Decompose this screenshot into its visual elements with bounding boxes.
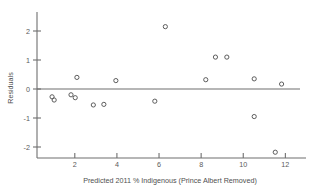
data-point-12 xyxy=(225,55,229,59)
data-point-11 xyxy=(213,55,217,59)
data-point-14 xyxy=(252,114,256,118)
data-point-6 xyxy=(102,102,106,106)
data-point-8 xyxy=(153,99,157,103)
y-tick-label--1: -1 xyxy=(24,114,30,123)
x-tick-label-4: 4 xyxy=(115,160,119,169)
y-tick-label-1: 1 xyxy=(26,56,30,65)
y-axis-title: Residuals xyxy=(6,72,15,104)
data-point-4 xyxy=(75,75,79,79)
data-point-15 xyxy=(273,150,277,154)
data-point-1 xyxy=(52,98,56,102)
data-point-10 xyxy=(204,78,208,82)
data-point-16 xyxy=(279,82,283,86)
residual-scatter-chart: 24681012210-1-2Predicted 2011 % Indigeno… xyxy=(0,0,310,195)
x-tick-label-10: 10 xyxy=(239,160,247,169)
data-point-2 xyxy=(69,93,73,97)
plot-canvas: 24681012210-1-2Predicted 2011 % Indigeno… xyxy=(0,0,310,195)
y-tick-label-2: 2 xyxy=(26,27,30,36)
data-point-13 xyxy=(252,77,256,81)
data-point-7 xyxy=(114,78,118,82)
x-tick-label-2: 2 xyxy=(73,160,77,169)
data-point-9 xyxy=(163,25,167,29)
x-tick-label-6: 6 xyxy=(157,160,161,169)
x-axis-title: Predicted 2011 % Indigenous (Prince Albe… xyxy=(83,176,257,185)
data-point-3 xyxy=(73,96,77,100)
y-tick-label--2: -2 xyxy=(24,143,30,152)
data-point-5 xyxy=(91,103,95,107)
x-tick-label-8: 8 xyxy=(199,160,203,169)
x-tick-label-12: 12 xyxy=(281,160,289,169)
y-tick-label-0: 0 xyxy=(26,85,30,94)
